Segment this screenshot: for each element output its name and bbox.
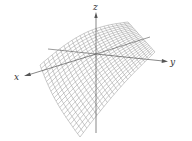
mesh-line (88, 32, 121, 87)
y-axis-negative (48, 49, 96, 54)
y-axis (96, 54, 163, 61)
x-axis-label: x (14, 72, 19, 82)
mesh-line (44, 62, 83, 133)
mesh-line (104, 26, 135, 72)
z-axis-arrow-icon (94, 12, 97, 18)
z-axis-label: z (92, 2, 98, 12)
surface-plot: z x y (0, 0, 192, 141)
y-axis-label: y (169, 57, 176, 67)
x-axis-arrow-icon (24, 73, 31, 76)
mesh-line (108, 25, 138, 68)
y-axis-arrow-icon (162, 59, 168, 63)
surface-mesh (40, 22, 155, 137)
